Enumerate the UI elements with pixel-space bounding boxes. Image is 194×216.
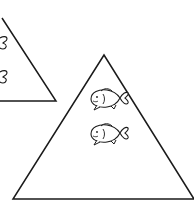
- fish-tail-icon: [0, 71, 7, 83]
- diagram-canvas: [0, 0, 194, 216]
- fish-tail-icon: [0, 37, 7, 49]
- fish-icon: [91, 124, 128, 145]
- fish-icon: [91, 89, 128, 110]
- small-triangle: [0, 18, 56, 101]
